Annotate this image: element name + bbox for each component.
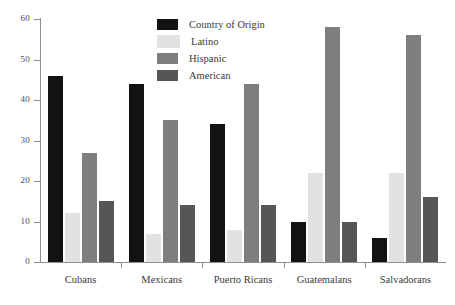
bar [129,84,144,262]
x-axis-category-label: Guatemalans [284,274,365,285]
y-axis-tick-label: 20 [4,176,30,185]
y-axis-tick-label: 0 [4,257,30,266]
legend-item: Hispanic [157,50,347,67]
x-axis-category-label: Puerto Ricans [202,274,283,285]
bar [210,124,225,262]
bar [48,76,63,262]
bar-group [372,19,438,262]
legend-swatch-icon [157,19,178,30]
bar [291,222,306,263]
legend-swatch-icon [157,70,178,81]
y-axis-tick-label: 60 [4,14,30,23]
x-axis-tick [202,263,203,268]
legend-item: Country of Origin [157,16,347,33]
bar [342,222,357,263]
chart-legend: Country of OriginLatinoHispanicAmerican [157,16,347,84]
legend-item-label: American [189,70,230,81]
x-axis-line [40,262,446,263]
x-axis-tick [284,263,285,268]
bar-group [48,19,114,262]
x-axis-category-label: Mexicans [121,274,202,285]
bar [163,120,178,262]
legend-item-label: Latino [191,36,218,47]
legend-swatch-icon [157,35,180,48]
legend-item: American [157,67,347,84]
y-axis-tick-label: 30 [4,136,30,145]
bar [389,173,404,262]
y-axis-tick [34,262,40,263]
bar [406,35,421,262]
legend-item-label: Hispanic [189,53,226,64]
bar [82,153,97,262]
legend-swatch-icon [157,53,178,64]
bar [65,213,80,262]
bar [423,197,438,262]
x-axis-tick [121,263,122,268]
bar-chart: 0102030405060 CubansMexicansPuerto Rican… [0,0,455,305]
x-axis-category-label: Salvadorans [365,274,446,285]
bar [244,84,259,262]
bar [99,201,114,262]
bar [227,230,242,262]
legend-item: Latino [157,33,347,50]
y-axis-tick-label: 10 [4,217,30,226]
bar [180,205,195,262]
bar [146,234,161,262]
y-axis-tick-label: 50 [4,55,30,64]
bar [372,238,387,262]
x-axis-category-label: Cubans [40,274,121,285]
bar [308,173,323,262]
y-axis-tick-label: 40 [4,95,30,104]
legend-item-label: Country of Origin [189,19,265,30]
x-axis-tick [365,263,366,268]
bar [261,205,276,262]
